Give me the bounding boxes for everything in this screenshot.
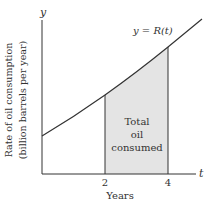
shaded-area	[105, 47, 168, 174]
curve-label: y = R(t)	[132, 25, 173, 36]
region-label-line3: consumed	[111, 142, 163, 153]
x-tick-4: 4	[165, 177, 171, 188]
chart: y t y = R(t) 2 4 Years Rate of oil consu…	[0, 0, 216, 208]
y-axis-label-line2: (billion barrels per year)	[17, 41, 28, 159]
region-label-line1: Total	[124, 116, 149, 127]
x-axis-label: Years	[105, 190, 134, 201]
x-axis-symbol: t	[199, 167, 204, 180]
y-axis-label-line1: Rate of oil consumption	[3, 43, 14, 158]
x-tick-2: 2	[102, 177, 108, 188]
y-axis-symbol: y	[39, 6, 47, 19]
region-label-line2: oil	[131, 129, 143, 140]
